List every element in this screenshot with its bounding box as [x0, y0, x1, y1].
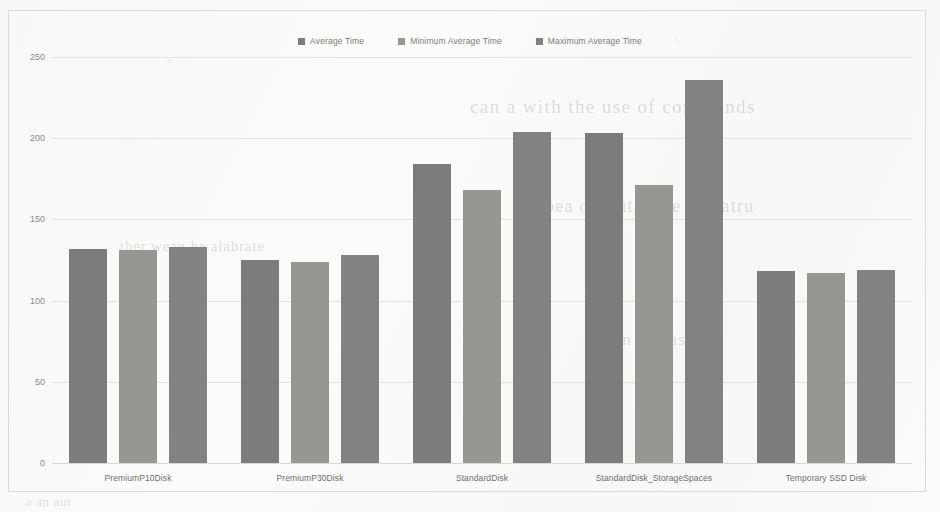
legend-swatch-icon [536, 38, 543, 45]
bar[interactable] [69, 249, 107, 463]
bar[interactable] [635, 185, 673, 463]
bar-group: StandardDisk [396, 57, 568, 463]
bar-group-bars [568, 57, 740, 463]
bar-group: PremiumP30Disk [224, 57, 396, 463]
y-axis-tick-label: 0 [40, 458, 45, 468]
bar[interactable] [513, 132, 551, 463]
bar-group-bars [740, 57, 912, 463]
bar[interactable] [291, 262, 329, 463]
y-axis-tick-label: 150 [30, 214, 45, 224]
legend-item[interactable]: Average Time [298, 36, 364, 46]
y-axis-tick-label: 100 [30, 296, 45, 306]
x-axis-category-label: Temporary SSD Disk [740, 473, 912, 483]
legend-item[interactable]: Maximum Average Time [536, 36, 642, 46]
plot-area: 050100150200250 PremiumP10DiskPremiumP30… [52, 57, 912, 463]
bar-group: PremiumP10Disk [52, 57, 224, 463]
gridline: 0 [52, 463, 912, 464]
legend-swatch-icon [298, 38, 305, 45]
bar-groups: PremiumP10DiskPremiumP30DiskStandardDisk… [52, 57, 912, 463]
x-axis-category-label: PremiumP10Disk [52, 473, 224, 483]
chart-page: can a with the use of commands ua bea of… [0, 0, 940, 512]
y-axis-tick-label: 250 [30, 52, 45, 62]
legend-item-label: Average Time [310, 36, 364, 46]
bar[interactable] [119, 250, 157, 463]
y-axis-tick-label: 50 [35, 377, 45, 387]
bar-group-bars [52, 57, 224, 463]
bar[interactable] [685, 80, 723, 463]
bar-group-bars [396, 57, 568, 463]
bar-group: StandardDisk_StorageSpaces [568, 57, 740, 463]
bar[interactable] [169, 247, 207, 463]
bar[interactable] [757, 271, 795, 463]
y-axis-tick-label: 200 [30, 133, 45, 143]
bar[interactable] [341, 255, 379, 463]
bar[interactable] [807, 273, 845, 463]
bar-group-bars [224, 57, 396, 463]
legend-item[interactable]: Minimum Average Time [398, 36, 502, 46]
bar[interactable] [413, 164, 451, 463]
bar[interactable] [241, 260, 279, 463]
bar[interactable] [857, 270, 895, 463]
legend-item-label: Maximum Average Time [548, 36, 642, 46]
legend-swatch-icon [398, 38, 405, 45]
bar-group: Temporary SSD Disk [740, 57, 912, 463]
chart-legend: Average TimeMinimum Average TimeMaximum … [0, 36, 940, 46]
bar[interactable] [585, 133, 623, 463]
background-ghost-text-e: a an aut [26, 494, 71, 510]
legend-item-label: Minimum Average Time [410, 36, 502, 46]
x-axis-category-label: StandardDisk [396, 473, 568, 483]
bar[interactable] [463, 190, 501, 463]
x-axis-category-label: PremiumP30Disk [224, 473, 396, 483]
x-axis-category-label: StandardDisk_StorageSpaces [568, 473, 740, 483]
